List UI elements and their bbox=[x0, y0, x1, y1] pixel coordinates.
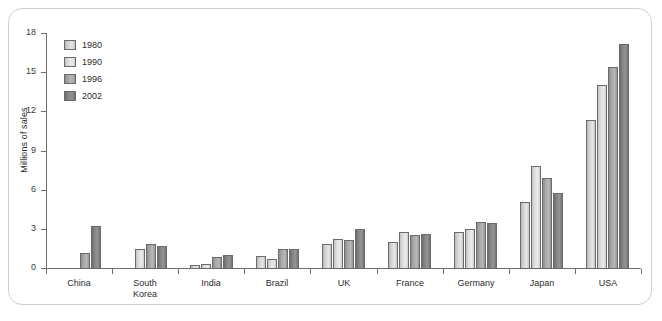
y-tick-mark bbox=[41, 33, 46, 34]
x-tick-mark bbox=[46, 269, 47, 274]
bar[interactable] bbox=[91, 226, 101, 269]
bar[interactable] bbox=[531, 166, 541, 269]
bar[interactable] bbox=[190, 265, 200, 269]
bar-group bbox=[388, 33, 431, 269]
y-tick-label: 3 bbox=[10, 224, 36, 233]
bar[interactable] bbox=[322, 244, 332, 269]
bar[interactable] bbox=[619, 44, 629, 269]
bar[interactable] bbox=[146, 244, 156, 269]
x-tick-mark bbox=[443, 269, 444, 274]
y-tick-mark bbox=[41, 151, 46, 152]
bar[interactable] bbox=[223, 255, 233, 269]
y-tick-label: 18 bbox=[10, 28, 36, 37]
bar-group bbox=[520, 33, 563, 269]
legend-item-label: 1980 bbox=[82, 40, 102, 50]
bar-group bbox=[322, 33, 365, 269]
bar-chart: Millions of sales 0369121518 ChinaSouth … bbox=[0, 0, 662, 321]
x-tick-mark bbox=[377, 269, 378, 274]
chart-legend: 1980199019962002 bbox=[64, 38, 102, 106]
bar[interactable] bbox=[267, 259, 277, 269]
y-tick-label: 12 bbox=[10, 106, 36, 115]
y-axis-line bbox=[46, 33, 47, 269]
bar[interactable] bbox=[399, 232, 409, 269]
legend-item-2002[interactable]: 2002 bbox=[64, 89, 102, 103]
bar[interactable] bbox=[608, 67, 618, 269]
bar[interactable] bbox=[454, 232, 464, 269]
x-tick-mark bbox=[178, 269, 179, 274]
legend-item-label: 2002 bbox=[82, 91, 102, 101]
bar[interactable] bbox=[289, 249, 299, 269]
bar[interactable] bbox=[520, 202, 530, 269]
bar-group bbox=[124, 33, 167, 269]
bar[interactable] bbox=[201, 264, 211, 269]
bar-group bbox=[586, 33, 629, 269]
y-tick-label: 0 bbox=[10, 263, 36, 272]
x-tick-mark bbox=[310, 269, 311, 274]
bar[interactable] bbox=[487, 223, 497, 269]
legend-swatch-icon bbox=[64, 40, 76, 50]
bar[interactable] bbox=[256, 256, 266, 269]
y-tick-label: 9 bbox=[10, 146, 36, 155]
x-tick-mark bbox=[244, 269, 245, 274]
bar[interactable] bbox=[465, 229, 475, 269]
bar-group bbox=[454, 33, 497, 269]
bar[interactable] bbox=[542, 178, 552, 269]
x-axis-category-label: USA bbox=[568, 278, 648, 289]
bar[interactable] bbox=[586, 120, 596, 269]
x-tick-mark bbox=[112, 269, 113, 274]
bar[interactable] bbox=[80, 253, 90, 269]
x-tick-mark bbox=[509, 269, 510, 274]
legend-swatch-icon bbox=[64, 57, 76, 67]
legend-item-1980[interactable]: 1980 bbox=[64, 38, 102, 52]
bar[interactable] bbox=[355, 229, 365, 269]
bar[interactable] bbox=[333, 239, 343, 269]
bar[interactable] bbox=[553, 193, 563, 269]
x-tick-mark bbox=[575, 269, 576, 274]
bar[interactable] bbox=[278, 249, 288, 269]
bar[interactable] bbox=[476, 222, 486, 269]
x-tick-mark bbox=[641, 269, 642, 274]
y-axis-title: Millions of sales bbox=[19, 80, 29, 200]
bar[interactable] bbox=[388, 242, 398, 269]
bar[interactable] bbox=[410, 235, 420, 269]
bar[interactable] bbox=[157, 246, 167, 270]
y-tick-mark bbox=[41, 190, 46, 191]
bar-group bbox=[256, 33, 299, 269]
legend-item-1990[interactable]: 1990 bbox=[64, 55, 102, 69]
legend-item-label: 1990 bbox=[82, 57, 102, 67]
legend-swatch-icon bbox=[64, 74, 76, 84]
legend-swatch-icon bbox=[64, 91, 76, 101]
bar[interactable] bbox=[344, 240, 354, 269]
legend-item-label: 1996 bbox=[82, 74, 102, 84]
y-tick-mark bbox=[41, 72, 46, 73]
bar-group bbox=[190, 33, 233, 269]
y-tick-label: 6 bbox=[10, 185, 36, 194]
y-tick-mark bbox=[41, 229, 46, 230]
y-tick-mark bbox=[41, 111, 46, 112]
bar[interactable] bbox=[597, 85, 607, 269]
bar[interactable] bbox=[421, 234, 431, 269]
y-tick-label: 15 bbox=[10, 67, 36, 76]
bar[interactable] bbox=[212, 257, 222, 269]
bar[interactable] bbox=[135, 249, 145, 269]
legend-item-1996[interactable]: 1996 bbox=[64, 72, 102, 86]
